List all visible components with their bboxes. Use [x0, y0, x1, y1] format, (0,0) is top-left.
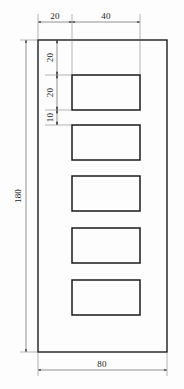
- plate-outline-group: [38, 40, 167, 352]
- slot-1: [72, 75, 140, 110]
- technical-drawing-canvas: 20 40 20 20 10: [0, 0, 184, 389]
- slot-3: [72, 176, 140, 211]
- slot-4: [72, 228, 140, 263]
- dimension-top-slot-width: 40: [72, 11, 140, 22]
- top-extension-lines: [38, 14, 140, 75]
- slot-2: [72, 125, 140, 160]
- dim-label-left-second: 20: [45, 88, 55, 98]
- slot-group: [72, 75, 140, 315]
- dim-label-overall-width: 80: [97, 359, 107, 369]
- dimension-overall-height: 180: [13, 40, 38, 352]
- drawing-svg: 20 40 20 20 10: [0, 0, 184, 389]
- dimension-overall-width: 80: [38, 352, 167, 376]
- inner-vertical-dimension-chain: 20 20 10: [45, 40, 72, 125]
- slot-5: [72, 280, 140, 315]
- plate-outline: [38, 40, 167, 352]
- dim-label-overall-height: 180: [13, 189, 23, 203]
- dim-label-left-third: 10: [45, 113, 55, 123]
- dimension-top-left-offset: 20: [38, 11, 72, 22]
- dim-label-left-first: 20: [45, 53, 55, 63]
- dim-label-top-slot-width: 40: [101, 11, 111, 21]
- dim-label-top-left-offset: 20: [50, 11, 60, 21]
